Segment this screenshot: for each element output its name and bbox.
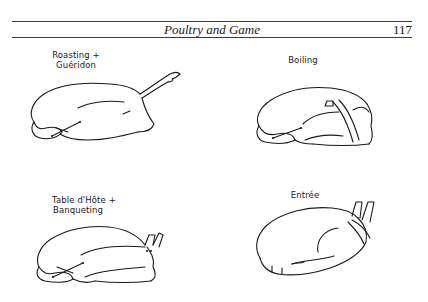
trussed-bird-table-dhote-icon [33, 223, 173, 289]
trussed-bird-roasting-icon [26, 70, 186, 148]
trussed-bird-entree-icon [252, 198, 382, 284]
figure-roasting [26, 70, 186, 148]
caption-line: Banqueting [32, 205, 124, 215]
caption-boiling: Boiling [280, 55, 326, 65]
page-number: 117 [393, 23, 412, 37]
trussed-bird-boiling-icon [253, 82, 383, 150]
caption-line: Boiling [280, 55, 326, 65]
figure-boiling [253, 82, 383, 150]
header-rule-bottom [12, 37, 412, 38]
caption-line: Guéridon [46, 60, 106, 70]
running-head: Poultry and Game 117 [12, 23, 412, 37]
figure-table-dhote [33, 223, 173, 289]
caption-line: Table d'Hôte + [44, 195, 124, 205]
figure-entree [252, 198, 382, 284]
running-title: Poultry and Game [12, 23, 412, 37]
caption-line: Roasting + [46, 50, 106, 60]
caption-roasting: Roasting + Guéridon [46, 50, 106, 70]
caption-table-dhote: Table d'Hôte + Banqueting [44, 195, 124, 215]
